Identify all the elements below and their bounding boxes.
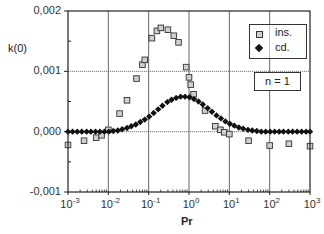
square-marker-icon (256, 31, 263, 38)
data-point-cd (159, 103, 165, 109)
data-point-ins (81, 138, 87, 144)
legend-item-cd: cd. (250, 42, 306, 56)
data-point-cd (150, 110, 156, 116)
legend-label-ins: ins. (275, 26, 292, 38)
legend-item-ins: ins. (250, 27, 306, 41)
y-tick-label: 0,002 (3, 4, 61, 16)
legend-label-cd: cd. (275, 41, 290, 53)
data-point-ins (286, 141, 292, 147)
y-tick-label: 0,000 (3, 125, 61, 137)
x-axis-title: Pr (181, 215, 193, 227)
data-point-ins (186, 75, 192, 81)
data-point-ins (246, 138, 252, 144)
data-point-ins (134, 76, 140, 82)
data-point-ins (158, 25, 164, 31)
x-tick-label: 10-1 (131, 196, 171, 210)
diamond-marker-icon (255, 44, 263, 52)
x-tick-label: 100 (171, 196, 211, 210)
x-tick-label: 101 (211, 196, 251, 210)
data-point-ins (142, 57, 148, 63)
x-tick-label: 102 (252, 196, 292, 210)
annotation-n-equals-1: n = 1 (254, 72, 301, 91)
data-point-ins (117, 111, 123, 117)
data-point-ins (149, 35, 155, 41)
y-axis-title: k(0) (8, 42, 27, 54)
data-point-cd (155, 106, 161, 112)
data-point-ins (188, 82, 194, 88)
data-point-cd (209, 109, 215, 115)
y-tick-label: 0,001 (3, 64, 61, 76)
data-point-ins (165, 27, 171, 33)
x-tick-label: 10-3 (50, 196, 90, 210)
x-tick-label: 103 (292, 196, 324, 210)
data-point-ins (227, 131, 233, 137)
data-point-ins (176, 40, 182, 46)
data-point-ins (183, 64, 189, 70)
data-point-ins (267, 143, 273, 149)
data-point-ins (171, 33, 177, 39)
x-tick-label: 10-2 (90, 196, 130, 210)
data-point-ins (93, 135, 99, 141)
legend: ins. cd. (249, 24, 307, 59)
data-point-ins (124, 97, 130, 103)
